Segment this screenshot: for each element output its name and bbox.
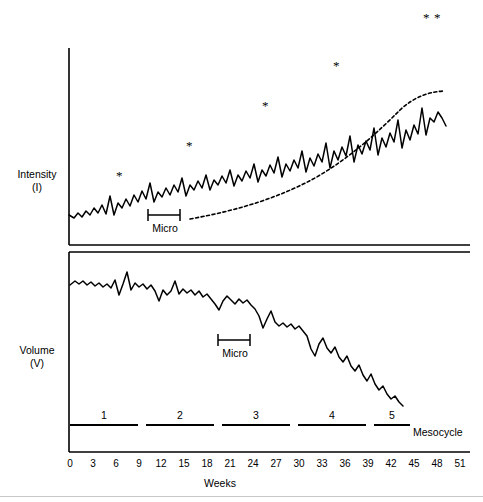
- micro-label-intensity: Micro: [138, 222, 192, 234]
- mesocycle-axis-label: Mesocycle: [413, 426, 463, 438]
- week-tick-18: 18: [198, 458, 216, 469]
- week-tick-42: 42: [382, 458, 400, 469]
- volume-axis-label-line2: (V): [6, 357, 68, 370]
- mesocycle-number-4: 4: [323, 409, 341, 421]
- intensity-star-marker-3: *: [262, 102, 269, 110]
- week-tick-48: 48: [428, 458, 446, 469]
- week-tick-12: 12: [152, 458, 170, 469]
- week-tick-6: 6: [107, 458, 125, 469]
- periodization-chart: [0, 0, 483, 502]
- week-tick-30: 30: [290, 458, 308, 469]
- intensity-star-marker-2: *: [186, 142, 193, 150]
- page-bottom-divider: [0, 496, 483, 497]
- intensity-axis-label-line2: (I): [6, 181, 68, 194]
- intensity-star-marker-4: *: [333, 62, 340, 70]
- week-tick-33: 33: [313, 458, 331, 469]
- mesocycle-number-2: 2: [171, 409, 189, 421]
- week-tick-9: 9: [130, 458, 148, 469]
- week-tick-15: 15: [175, 458, 193, 469]
- intensity-star-marker-1: *: [116, 172, 123, 180]
- volume-axis-label-line1: Volume: [6, 344, 68, 357]
- week-tick-36: 36: [336, 458, 354, 469]
- week-tick-0: 0: [61, 458, 79, 469]
- week-tick-3: 3: [84, 458, 102, 469]
- week-tick-51: 51: [451, 458, 469, 469]
- mesocycle-number-1: 1: [95, 409, 113, 421]
- week-tick-27: 27: [267, 458, 285, 469]
- week-tick-24: 24: [244, 458, 262, 469]
- intensity-axis-label-line1: Intensity: [6, 168, 68, 181]
- micro-label-volume: Micro: [208, 347, 262, 359]
- intensity-axis-label: Intensity (I): [6, 168, 68, 194]
- week-tick-39: 39: [359, 458, 377, 469]
- volume-axis-label: Volume (V): [6, 344, 68, 370]
- chart-background: [0, 0, 483, 502]
- mesocycle-number-3: 3: [247, 409, 265, 421]
- mesocycle-number-5: 5: [383, 409, 401, 421]
- intensity-star-marker-5a: *: [423, 14, 430, 22]
- week-tick-45: 45: [405, 458, 423, 469]
- week-tick-21: 21: [221, 458, 239, 469]
- weeks-axis-title: Weeks: [180, 477, 260, 489]
- intensity-star-marker-5b: *: [434, 14, 441, 22]
